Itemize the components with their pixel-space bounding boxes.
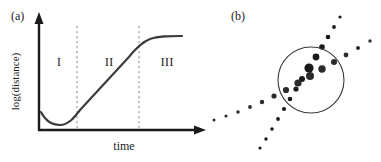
figure-container: (a) I II III log(distance) time (b) [0, 0, 381, 162]
scatter-point [338, 15, 341, 18]
scatter-point [318, 65, 325, 72]
region-label-iii: III [152, 55, 182, 68]
scatter-point [248, 105, 252, 109]
region-label-ii: II [96, 55, 122, 68]
scatter-point [224, 114, 227, 117]
y-axis-arrowhead [35, 12, 44, 24]
x-axis-arrowhead [194, 126, 206, 135]
scatter-point [356, 46, 360, 50]
scatter-point [294, 79, 301, 86]
scatter-point [304, 63, 313, 72]
panel-b-plot [210, 0, 381, 162]
panel-a-plot [0, 0, 210, 162]
scatter-point [306, 72, 314, 80]
log-distance-curve [41, 36, 182, 125]
cluster-circle [278, 47, 344, 113]
scatter-point [282, 107, 286, 111]
scatter-point [368, 39, 371, 42]
scatter-point [331, 59, 337, 65]
scatter-point [271, 93, 276, 98]
scatter-point [264, 137, 267, 140]
y-axis-title: log(distance) [10, 42, 21, 122]
panel-b: (b) [210, 0, 381, 162]
scatter-point [344, 53, 349, 58]
scatter-point [332, 25, 336, 29]
scatter-point [293, 86, 298, 91]
scatter-point [260, 100, 264, 104]
scatter-point [236, 110, 239, 113]
scatter-point [313, 54, 320, 61]
scatter-point [270, 127, 274, 131]
scatter-point [288, 97, 293, 102]
scatter-point [283, 87, 289, 93]
scatter-point [326, 35, 331, 40]
scatter-point [213, 119, 216, 122]
scatter-point [276, 117, 280, 121]
region-label-i: I [48, 55, 70, 68]
scatter-point [258, 146, 261, 149]
x-axis-title: time [104, 140, 144, 152]
panel-a: (a) I II III log(distance) time [0, 0, 210, 162]
x-axis [38, 126, 206, 135]
scatter-trails [213, 15, 372, 149]
